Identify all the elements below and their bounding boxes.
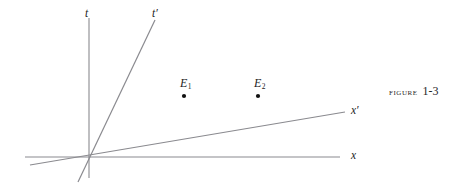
figure-caption: Figure1-3 [389,85,439,98]
event-dot-e1 [182,94,186,98]
event-label-e1: E1 [180,77,191,89]
figure-caption-number: 1-3 [423,84,439,98]
t-prime-axis-label: t′ [152,8,158,20]
x-prime-axis-label: x′ [351,105,359,117]
figure-container: t t′ x x′ E1 E2 Figure1-3 [0,0,475,189]
t-axis-label: t [85,8,88,20]
event-label-e2-subscript: 2 [262,82,266,91]
event-label-e2: E2 [254,77,265,89]
event-label-e1-subscript: 1 [188,82,192,91]
event-dot-e2 [256,94,260,98]
t-prime-axis-line [78,20,155,182]
figure-caption-word: Figure [389,86,418,97]
event-label-e1-base: E [180,76,187,90]
x-axis-label: x [351,150,356,162]
event-label-e2-base: E [254,76,261,90]
